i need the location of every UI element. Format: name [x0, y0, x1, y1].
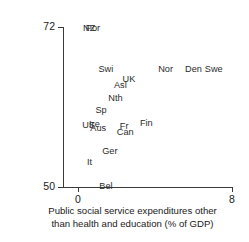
x-tick-label-0: 0 [68, 194, 88, 205]
data-point-label-nth: Nth [108, 93, 122, 103]
y-tick-label-72: 72 [33, 21, 55, 32]
data-point-label-por: Por [86, 23, 100, 33]
data-point-label-fin: Fin [140, 118, 153, 128]
data-point-label-swe: Swe [205, 64, 223, 74]
y-tick-label-50: 50 [33, 181, 55, 192]
y-axis-line [63, 27, 64, 187]
scatter-chart-figure: Employment rate for persons with less th… [0, 0, 249, 242]
data-point-label-can: Can [117, 127, 134, 137]
data-point-label-den: Den [185, 64, 202, 74]
x-axis-title: Public social service expenditures other… [20, 205, 245, 231]
data-point-label-nor: Nor [158, 64, 173, 74]
y-tick-mark-50 [58, 187, 63, 188]
x-tick-mark-8 [232, 187, 233, 192]
data-point-label-bel: Bel [99, 181, 112, 191]
data-point-label-sp: Sp [95, 105, 106, 115]
data-point-label-ger: Ger [102, 146, 117, 156]
data-point-label-swi: Swi [98, 64, 113, 74]
x-tick-label-8: 8 [222, 194, 242, 205]
data-point-label-it: It [87, 157, 92, 167]
x-tick-mark-0 [78, 187, 79, 192]
x-axis-title-line-1: Public social service expenditures other [20, 205, 245, 218]
data-point-label-aus: Aus [90, 123, 106, 133]
y-tick-mark-72 [58, 27, 63, 28]
x-axis-line [63, 187, 233, 188]
data-point-label-asl: Asl [114, 80, 127, 90]
x-axis-title-line-2: than health and education (% of GDP) [20, 218, 245, 231]
